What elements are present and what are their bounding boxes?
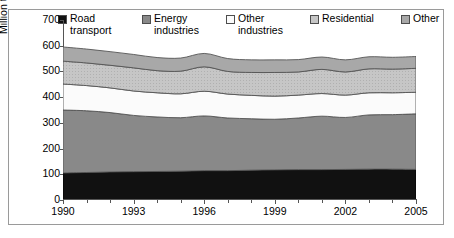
x-axis-tick-mark-minor	[392, 200, 393, 203]
legend-label: Other	[413, 13, 439, 25]
y-axis-tick-label: 500	[30, 65, 60, 75]
y-axis-title: Million tonnes CO2 equivalent	[0, 0, 13, 34]
x-axis-tick-label: 2005	[404, 205, 427, 217]
x-axis-tick-label: 2002	[334, 205, 357, 217]
x-axis-tick-mark-minor	[298, 200, 299, 203]
x-axis-tick-mark-minor	[228, 200, 229, 203]
y-axis-tick-label: 700	[30, 14, 60, 24]
x-axis-tick-mark-major	[416, 200, 417, 204]
y-axis-tick-label: 100	[30, 168, 60, 178]
x-axis-tick-mark-major	[345, 200, 346, 204]
y-axis-tick-label: 0	[30, 194, 60, 204]
x-axis-tick-label: 1999	[263, 205, 286, 217]
x-axis-tick-mark-major	[134, 200, 135, 204]
x-axis-tick-mark-minor	[87, 200, 88, 203]
x-axis-tick-mark-minor	[157, 200, 158, 203]
y-axis-tick-label: 400	[30, 91, 60, 101]
x-axis-tick-mark-major	[204, 200, 205, 204]
x-axis-tick-mark-minor	[110, 200, 111, 203]
x-axis-tick-label: 1990	[51, 205, 74, 217]
x-axis-tick-labels: 199019931996199920022005	[63, 205, 423, 221]
chart-figure: Road transportEnergy industriesOther ind…	[0, 0, 454, 238]
stacked-area-plot	[63, 20, 416, 200]
x-axis-tick-mark-major	[275, 200, 276, 204]
y-axis-tick-label: 300	[30, 117, 60, 127]
area-series-road-transport	[63, 169, 416, 200]
x-axis-tick-mark-minor	[369, 200, 370, 203]
x-axis-tick-mark-minor	[322, 200, 323, 203]
x-axis-tick-label: 1993	[122, 205, 145, 217]
x-axis-tick-mark-major	[63, 200, 64, 204]
x-axis-tick-label: 1996	[193, 205, 216, 217]
x-axis-tick-mark-minor	[181, 200, 182, 203]
x-axis-tick-mark-minor	[251, 200, 252, 203]
y-axis-tick-label: 600	[30, 40, 60, 50]
plot-area	[63, 20, 416, 200]
y-axis-tick-labels: 0100200300400500600700	[28, 0, 60, 220]
y-axis-tick-label: 200	[30, 143, 60, 153]
area-series-energy-industries	[63, 110, 416, 173]
